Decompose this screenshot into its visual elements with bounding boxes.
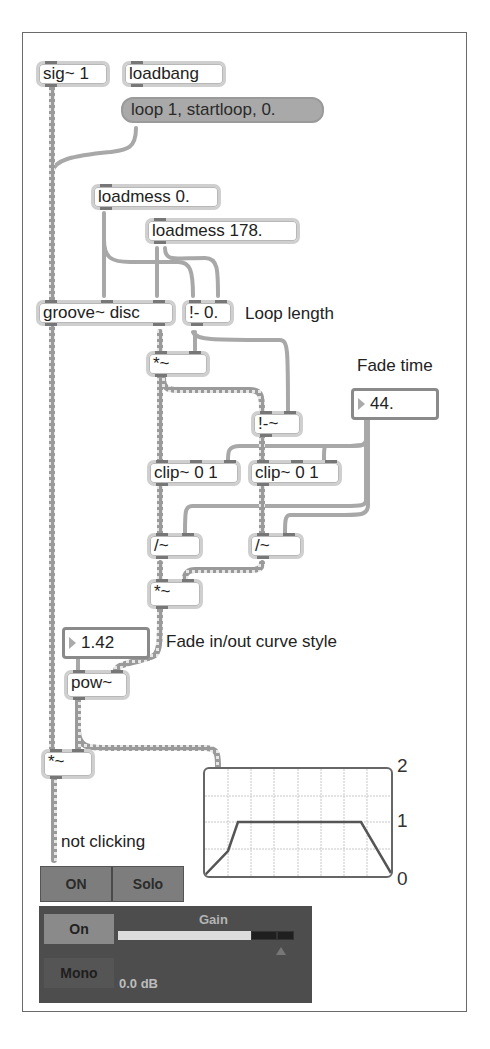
gain-value: 0.0 dB bbox=[119, 976, 158, 991]
reverse-minus-signal-label: !-~ bbox=[258, 414, 278, 433]
fade-time-comment: Fade time bbox=[357, 356, 433, 376]
gain-zero-marker-icon bbox=[276, 947, 286, 955]
multiply-object-2[interactable]: *~ bbox=[147, 579, 203, 609]
divide-object-2[interactable]: /~ bbox=[248, 533, 304, 559]
fade-time-number[interactable]: 44. bbox=[351, 388, 439, 420]
clip-label-2: clip~ 0 1 bbox=[255, 463, 319, 482]
gain-meter-segment bbox=[252, 932, 276, 939]
reverse-minus-signal-object[interactable]: !-~ bbox=[251, 411, 303, 437]
fade-time-value: 44. bbox=[370, 394, 394, 413]
number-arrow-icon bbox=[358, 398, 365, 410]
gain-panel: On Mono Gain 0.0 dB bbox=[39, 906, 312, 1003]
loadmess-178-label: loadmess 178. bbox=[152, 221, 263, 240]
gain-on-button[interactable]: On bbox=[44, 914, 114, 944]
reverse-minus-label: !- 0. bbox=[189, 303, 218, 322]
loadmess-0-label: loadmess 0. bbox=[98, 187, 190, 206]
sig-object-label: sig~ 1 bbox=[43, 64, 89, 83]
scope-label-0: 0 bbox=[397, 868, 408, 890]
loadbang-object[interactable]: loadbang bbox=[122, 61, 226, 87]
multiply-object-1[interactable]: *~ bbox=[146, 351, 210, 377]
scope-label-1: 1 bbox=[397, 810, 408, 832]
curve-value: 1.42 bbox=[81, 633, 114, 652]
multiply-label-3: *~ bbox=[48, 752, 65, 771]
loop-message-label: loop 1, startloop, 0. bbox=[131, 100, 276, 119]
clip-label-1: clip~ 0 1 bbox=[154, 463, 218, 482]
on-toggle-button[interactable]: ON bbox=[41, 867, 113, 901]
solo-toggle-button[interactable]: Solo bbox=[113, 867, 183, 901]
divide-object-1[interactable]: /~ bbox=[147, 533, 203, 559]
sig-object[interactable]: sig~ 1 bbox=[36, 61, 110, 87]
multiply-object-3[interactable]: *~ bbox=[41, 749, 95, 779]
reverse-minus-object[interactable]: !- 0. bbox=[182, 300, 234, 326]
loadmess-0-object[interactable]: loadmess 0. bbox=[91, 184, 221, 210]
gain-slider-fill bbox=[118, 931, 251, 940]
multiply-label-1: *~ bbox=[153, 354, 170, 373]
curve-number[interactable]: 1.42 bbox=[62, 627, 150, 659]
scope-label-2: 2 bbox=[397, 755, 408, 777]
loadmess-178-object[interactable]: loadmess 178. bbox=[145, 218, 300, 244]
clip-object-2[interactable]: clip~ 0 1 bbox=[248, 460, 342, 486]
multiply-label-2: *~ bbox=[154, 582, 171, 601]
not-clicking-comment: not clicking bbox=[61, 832, 145, 852]
groove-object[interactable]: groove~ disc bbox=[36, 300, 176, 326]
loadbang-label: loadbang bbox=[129, 64, 199, 83]
curve-style-comment: Fade in/out curve style bbox=[166, 632, 337, 652]
loop-length-comment: Loop length bbox=[245, 304, 334, 324]
clip-object-1[interactable]: clip~ 0 1 bbox=[147, 460, 241, 486]
scope-plot bbox=[205, 769, 391, 876]
scope-display[interactable] bbox=[203, 767, 393, 878]
pow-label: pow~ bbox=[71, 673, 112, 692]
gain-meter-segment bbox=[278, 932, 293, 939]
gain-title: Gain bbox=[199, 912, 228, 927]
on-solo-toggle-bar: ON Solo bbox=[40, 866, 184, 902]
loop-message[interactable]: loop 1, startloop, 0. bbox=[121, 97, 324, 123]
gain-slider[interactable] bbox=[118, 931, 294, 940]
pow-object[interactable]: pow~ bbox=[64, 670, 130, 700]
divide-label-2: /~ bbox=[255, 536, 270, 555]
mono-button[interactable]: Mono bbox=[44, 958, 114, 988]
groove-label: groove~ disc bbox=[43, 303, 140, 322]
number-arrow-icon bbox=[69, 637, 76, 649]
divide-label-1: /~ bbox=[154, 536, 169, 555]
